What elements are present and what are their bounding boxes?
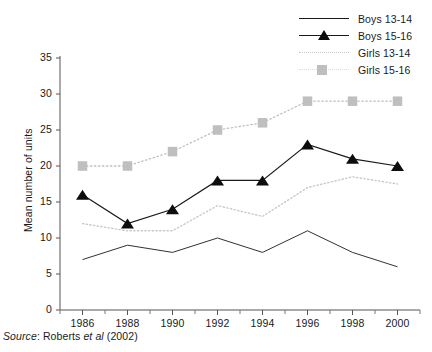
x-tick-label: 1990 <box>153 317 193 329</box>
y-tick-label: 0 <box>30 303 52 315</box>
x-tick-label: 1998 <box>333 317 373 329</box>
y-tick-label: 10 <box>30 231 52 243</box>
series-boys-15-16-line <box>83 144 398 223</box>
y-tick-label: 15 <box>30 195 52 207</box>
chart-figure: Boys 13-14 Boys 15-16 Girls 13-14 Girls … <box>0 0 432 352</box>
source-caption: Source: Roberts et al (2002) <box>3 330 138 342</box>
marker-girls-15-16 <box>393 96 403 106</box>
marker-girls-15-16 <box>258 118 268 128</box>
y-tick-label: 20 <box>30 159 52 171</box>
x-tick-label: 1986 <box>63 317 103 329</box>
marker-girls-15-16 <box>168 147 178 157</box>
y-tick-label: 5 <box>30 267 52 279</box>
source-author: Roberts <box>43 330 83 342</box>
x-tick-label: 2000 <box>378 317 418 329</box>
x-tick-label: 1996 <box>288 317 328 329</box>
x-tick-label: 1992 <box>198 317 238 329</box>
y-tick-label: 30 <box>30 87 52 99</box>
marker-boys-15-16 <box>76 190 89 200</box>
y-tick-label: 25 <box>30 123 52 135</box>
marker-boys-15-16 <box>391 161 404 171</box>
marker-boys-15-16 <box>346 154 359 164</box>
source-prefix: Source <box>3 330 37 342</box>
marker-girls-15-16 <box>78 161 88 171</box>
y-tick-label: 35 <box>30 51 52 63</box>
marker-boys-15-16 <box>301 139 314 149</box>
marker-girls-15-16 <box>303 96 313 106</box>
x-tick-label: 1988 <box>108 317 148 329</box>
source-etal: et al <box>83 330 103 342</box>
source-year: (2002) <box>104 330 138 342</box>
marker-girls-15-16 <box>213 125 223 135</box>
plot-area <box>0 0 432 352</box>
series-boys-13-14-line <box>83 231 398 267</box>
series-girls-15-16-line <box>83 101 398 166</box>
marker-girls-15-16 <box>123 161 133 171</box>
marker-girls-15-16 <box>348 96 358 106</box>
x-tick-label: 1994 <box>243 317 283 329</box>
